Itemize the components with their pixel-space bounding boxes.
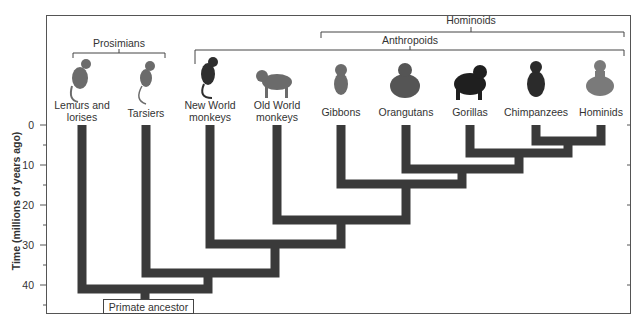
group-label-prosimians: Prosimians [93, 37, 145, 49]
taxon-label-old-world-monkeys: Old Worldmonkeys [254, 99, 301, 123]
taxon-label-new-world-monkeys: New Worldmonkeys [184, 99, 235, 123]
taxon-label-tarsiers: Tarsiers [128, 107, 165, 119]
animal-icons [71, 57, 614, 104]
lemur-icon [71, 59, 91, 102]
taxon-label-chimpanzees: Chimpanzees [504, 106, 568, 118]
group-label-hominoids: Hominoids [446, 14, 496, 26]
taxon-label-hominids: Hominids [579, 106, 623, 118]
orangutan-icon [390, 63, 420, 98]
taxon-label-lemurs: Lemurs andlorises [54, 99, 109, 123]
group-brackets [73, 27, 624, 64]
taxon-label-gorillas: Gorillas [452, 106, 488, 118]
new-world-monkey-icon [201, 57, 218, 98]
old-world-monkey-icon [256, 70, 292, 98]
tree-branches [82, 125, 601, 300]
group-label-anthropoids: Anthropoids [382, 34, 438, 46]
y-axis-title: Time (millions of years ago) [10, 121, 22, 281]
gibbon-icon [334, 64, 348, 95]
root-label-primate-ancestor: Primate ancestor [103, 299, 194, 314]
gorilla-icon [454, 65, 487, 100]
chimpanzee-icon [527, 61, 545, 97]
human-icon [586, 60, 614, 96]
taxon-label-gibbons: Gibbons [321, 106, 360, 118]
tarsier-icon [139, 61, 155, 104]
phylogenetic-tree [0, 0, 643, 329]
taxon-label-orangutans: Orangutans [379, 106, 434, 118]
